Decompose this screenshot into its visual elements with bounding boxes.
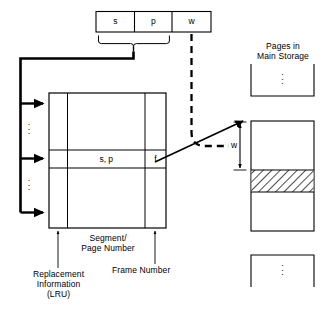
table-rows-dots-upper: ... bbox=[24, 120, 34, 134]
displacement-field-label: w bbox=[172, 16, 211, 26]
page-number-field-label: p bbox=[135, 16, 173, 26]
sp-brace bbox=[99, 36, 170, 52]
highlighted-row-segment-page-value: s, p bbox=[68, 154, 146, 164]
segment-page-number-caption: Segment/ Page Number bbox=[69, 233, 147, 253]
table-rows-dots-lower: ... bbox=[24, 176, 34, 190]
replacement-information-caption: Replacement Information (LRU) bbox=[17, 269, 100, 299]
displacement-dashed-path bbox=[192, 34, 230, 146]
w-offset-label: w bbox=[228, 140, 240, 150]
main-storage-bottom-dots: ... bbox=[277, 261, 288, 275]
target-frame-box bbox=[251, 121, 314, 231]
main-storage-heading: Pages in Main Storage bbox=[243, 41, 323, 61]
virtual-memory-translation-diagram: s p w s, p f ... ... Pages in Main Stora… bbox=[0, 0, 327, 309]
segment-number-field-label: s bbox=[96, 16, 135, 26]
frame-number-caption: Frame Number bbox=[112, 265, 200, 275]
main-storage-top-dots: ... bbox=[277, 70, 288, 84]
highlighted-row-frame-value: f bbox=[145, 154, 166, 164]
